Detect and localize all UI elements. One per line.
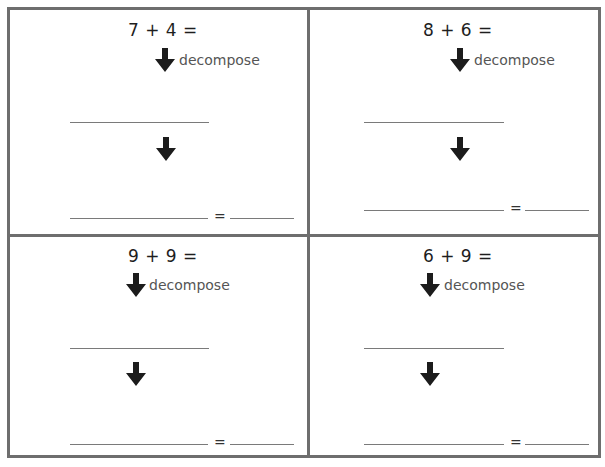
decomposition-blank[interactable] — [70, 348, 209, 349]
decompose-label: decompose — [149, 277, 230, 293]
down-arrow-icon — [126, 362, 146, 386]
down-arrow-icon — [126, 273, 146, 297]
problem-panel-4: 6 + 9 = decompose = — [310, 237, 604, 458]
equals-sign: = — [214, 435, 226, 449]
decomposition-blank[interactable] — [364, 122, 504, 123]
problem-panel-2: 8 + 6 = decompose = — [310, 10, 604, 231]
decompose-label: decompose — [179, 52, 260, 68]
down-arrow-icon — [420, 362, 440, 386]
expression-blank[interactable] — [70, 444, 208, 445]
expression-blank[interactable] — [364, 444, 504, 445]
problem-panel-3: 9 + 9 = decompose = — [10, 237, 304, 458]
down-arrow-icon — [156, 137, 176, 161]
equals-sign: = — [214, 209, 226, 223]
equation: 9 + 9 = — [128, 246, 198, 266]
problem-panel-1: 7 + 4 = decompose = — [10, 10, 304, 231]
answer-blank[interactable] — [525, 210, 589, 211]
answer-blank[interactable] — [230, 444, 294, 445]
worksheet: 7 + 4 = decompose = 8 + 6 = decompose = … — [7, 7, 601, 458]
decompose-label: decompose — [444, 277, 525, 293]
equation: 6 + 9 = — [423, 246, 493, 266]
down-arrow-icon — [420, 273, 440, 297]
expression-blank[interactable] — [364, 210, 504, 211]
equation: 7 + 4 = — [128, 20, 198, 40]
equation: 8 + 6 = — [423, 20, 493, 40]
expression-blank[interactable] — [70, 218, 208, 219]
decomposition-blank[interactable] — [70, 122, 209, 123]
answer-blank[interactable] — [230, 218, 294, 219]
down-arrow-icon — [155, 48, 175, 72]
down-arrow-icon — [450, 48, 470, 72]
equals-sign: = — [510, 201, 522, 215]
decompose-label: decompose — [474, 52, 555, 68]
answer-blank[interactable] — [525, 444, 589, 445]
down-arrow-icon — [450, 137, 470, 161]
decomposition-blank[interactable] — [364, 348, 504, 349]
equals-sign: = — [510, 435, 522, 449]
